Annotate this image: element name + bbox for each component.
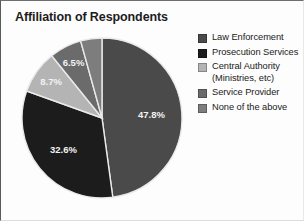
chart-legend: Law EnforcementProsecution ServicesCentr…: [198, 32, 303, 117]
legend-item-label: Prosecution Services: [212, 47, 298, 59]
legend-item-label: Central Authority (Ministries, etc): [212, 61, 303, 84]
legend-swatch-icon: [198, 63, 207, 72]
legend-item[interactable]: None of the above: [198, 102, 303, 114]
legend-item[interactable]: Law Enforcement: [198, 32, 303, 44]
legend-swatch-icon: [198, 89, 207, 98]
legend-swatch-icon: [198, 104, 207, 113]
pie-slice-value-label: 32.6%: [50, 144, 77, 155]
pie-slice-value-label: 6.5%: [63, 57, 85, 68]
pie-chart-figure: Affiliation of Respondents 47.8%32.6%8.7…: [0, 0, 304, 221]
legend-item[interactable]: Service Provider: [198, 87, 303, 99]
legend-item-label: None of the above: [212, 102, 287, 114]
legend-item[interactable]: Central Authority (Ministries, etc): [198, 61, 303, 84]
legend-swatch-icon: [198, 34, 207, 43]
pie-svg: 47.8%32.6%8.7%6.5%: [21, 27, 185, 211]
pie-plot-area: 47.8%32.6%8.7%6.5%: [21, 27, 185, 211]
pie-slice-value-label: 8.7%: [40, 76, 62, 87]
legend-item[interactable]: Prosecution Services: [198, 47, 303, 59]
chart-title: Affiliation of Respondents: [15, 10, 168, 24]
legend-swatch-icon: [198, 49, 207, 58]
legend-item-label: Law Enforcement: [212, 32, 284, 44]
legend-item-label: Service Provider: [212, 87, 279, 99]
pie-slice-value-label: 47.8%: [138, 109, 165, 120]
